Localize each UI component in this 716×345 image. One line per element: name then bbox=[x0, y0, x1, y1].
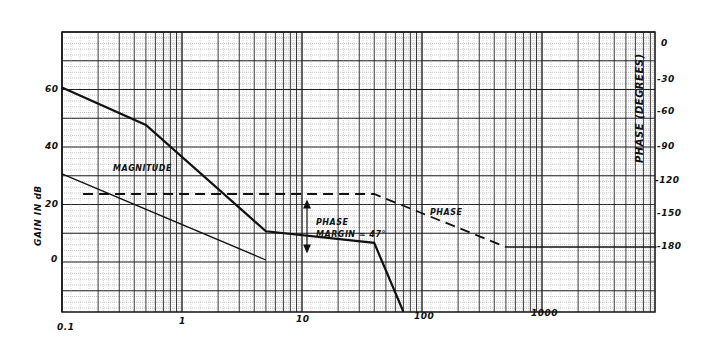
phase-axis-title: PHASE (DEGREES) bbox=[634, 54, 645, 164]
phase-margin-label-line1: PHASE bbox=[316, 218, 348, 227]
y2-tick-120: -120 bbox=[655, 175, 680, 185]
x-tick-100: 100 bbox=[414, 311, 434, 321]
y2-tick-90: -90 bbox=[657, 141, 675, 151]
y-tick-20: 20 bbox=[45, 199, 59, 209]
bode-plot bbox=[0, 0, 716, 345]
x-tick-1: 1 bbox=[179, 316, 186, 326]
gain-axis-title: GAIN IN dB bbox=[33, 185, 43, 246]
phase-margin-label-line2: MARGIN ≈ 47° bbox=[316, 230, 386, 239]
magnitude-curve bbox=[62, 88, 403, 312]
y2-tick-60: -60 bbox=[657, 106, 675, 116]
y2-tick-30: -30 bbox=[657, 74, 675, 84]
y2-tick-150: -150 bbox=[657, 208, 682, 218]
y2-tick-180: -180 bbox=[657, 241, 682, 251]
phase-label: PHASE bbox=[430, 208, 462, 217]
y-tick-60: 60 bbox=[45, 84, 59, 94]
y-tick-0: 0 bbox=[51, 254, 58, 264]
x-tick-0.1: 0.1 bbox=[57, 322, 74, 332]
y2-tick-0: 0 bbox=[661, 38, 668, 48]
y-tick-40: 40 bbox=[45, 141, 59, 151]
x-tick-10: 10 bbox=[296, 314, 310, 324]
magnitude-label: MAGNITUDE bbox=[113, 164, 172, 173]
phase-margin-arrow bbox=[304, 201, 310, 252]
x-tick-1000: 1000 bbox=[531, 308, 558, 318]
uncompensated-magnitude-curve bbox=[62, 174, 266, 260]
